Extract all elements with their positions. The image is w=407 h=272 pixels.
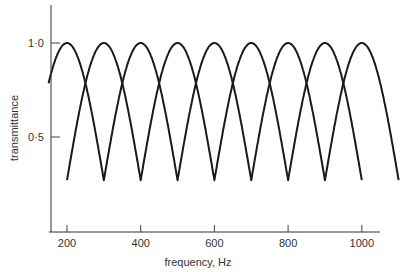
x-tick-label: 200 [58, 237, 76, 249]
series-line-b [67, 43, 362, 180]
x-tick-label: 400 [132, 237, 150, 249]
y-axis-label: transmittance [8, 95, 20, 161]
x-tick-label: 800 [279, 237, 297, 249]
x-ticks-group: 2004006008001000 [58, 225, 374, 249]
transmittance-chart: 2004006008001000 1·00·5 frequency, Hz tr… [0, 0, 407, 272]
series-line-a [49, 43, 399, 180]
curves-group [49, 43, 399, 180]
x-tick-label: 600 [205, 237, 223, 249]
y-ticks-group: 1·00·5 [28, 37, 60, 143]
y-tick-label: 1·0 [28, 37, 44, 49]
y-tick-label: 0·5 [28, 131, 44, 143]
x-tick-label: 1000 [350, 237, 374, 249]
x-axis-label: frequency, Hz [164, 256, 231, 268]
